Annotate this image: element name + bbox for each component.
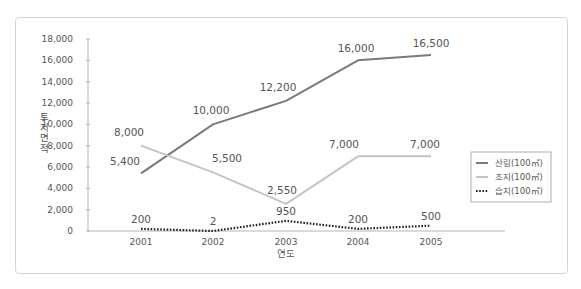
x-tick-label: 2002 [202, 237, 225, 247]
legend: 산림(100㎡)초지(100㎡)습지(100㎡) [471, 152, 551, 202]
legend-label: 산림(100㎡) [495, 158, 543, 168]
x-tick-label: 2004 [347, 237, 370, 247]
data-label: 12,200 [260, 81, 297, 93]
data-label: 8,000 [114, 126, 144, 138]
data-label: 5,400 [110, 155, 140, 167]
data-label: 16,000 [338, 42, 375, 54]
y-ticks: 02,0004,0006,0008,00010,00012,00014,0001… [42, 34, 91, 236]
y-axis-title: 토지면적 [40, 111, 49, 154]
legend-label: 습지(100㎡) [495, 186, 543, 196]
x-axis-title: 연도 [277, 248, 295, 259]
y-tick-label: 12,000 [42, 98, 74, 108]
data-label: 950 [276, 205, 296, 217]
data-label: 16,500 [413, 37, 450, 49]
y-tick-label: 8,000 [47, 141, 73, 151]
data-label: 2 [210, 215, 217, 227]
data-labels: 5,40010,00012,20016,00016,5008,0005,5002… [110, 37, 449, 227]
data-label: 10,000 [193, 104, 230, 116]
axes [88, 39, 505, 231]
legend-label: 초지(100㎡) [495, 172, 543, 182]
y-tick-label: 2,000 [47, 205, 73, 215]
series-line-3 [141, 221, 431, 231]
x-tick-label: 2003 [275, 237, 298, 247]
data-label: 7,000 [329, 138, 359, 150]
data-label: 2,550 [267, 184, 297, 196]
data-label: 200 [348, 213, 368, 225]
y-tick-label: 16,000 [42, 55, 74, 65]
y-tick-label: 6,000 [47, 162, 73, 172]
y-tick-label: 0 [67, 226, 73, 236]
x-ticks: 20012002200320042005 [130, 237, 443, 247]
x-tick-label: 2005 [420, 237, 443, 247]
y-tick-label: 4,000 [47, 183, 73, 193]
data-label: 200 [131, 213, 151, 225]
data-label: 5,500 [212, 152, 242, 164]
x-tick-label: 2001 [130, 237, 153, 247]
data-label: 500 [421, 210, 441, 222]
y-tick-label: 18,000 [42, 34, 74, 44]
data-label: 7,000 [410, 138, 440, 150]
y-tick-label: 14,000 [42, 77, 74, 87]
line-chart: 02,0004,0006,0008,00010,00012,00014,0001… [0, 0, 581, 289]
